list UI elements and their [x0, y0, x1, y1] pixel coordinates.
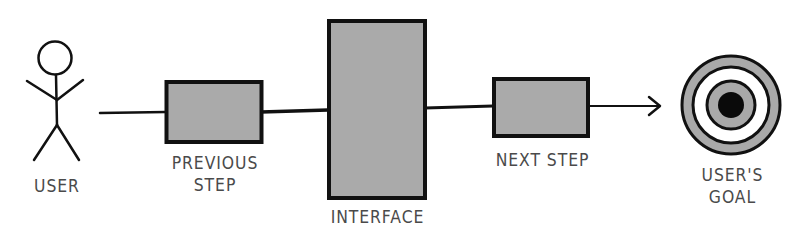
interface-box: [329, 21, 425, 198]
target-goal-icon: [682, 56, 780, 154]
interface-label: INTERFACE: [306, 206, 449, 228]
users-goal-label-line2: GOAL: [693, 186, 771, 208]
previous-step-label-line2: STEP: [155, 174, 275, 196]
previous-step-box: [167, 82, 262, 142]
next-step-label-text: NEXT STEP: [496, 150, 590, 170]
user-label-text: USER: [34, 176, 80, 196]
diagram-graphics: [0, 0, 811, 236]
previous-step-label-line1: PREVIOUS: [155, 152, 275, 174]
flow-diagram: USER PREVIOUS STEP INTERFACE NEXT STEP U…: [0, 0, 811, 236]
interface-label-text: INTERFACE: [331, 207, 425, 227]
previous-step-label: PREVIOUS STEP: [155, 152, 275, 196]
users-goal-label: USER'S GOAL: [693, 164, 771, 208]
next-step-label: NEXT STEP: [480, 149, 604, 171]
user-stick-figure-icon: [27, 42, 83, 161]
next-step-box: [494, 79, 588, 136]
users-goal-label-line1: USER'S: [693, 164, 771, 186]
user-label: USER: [25, 175, 89, 197]
